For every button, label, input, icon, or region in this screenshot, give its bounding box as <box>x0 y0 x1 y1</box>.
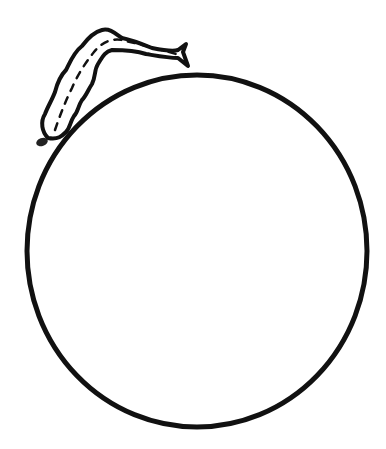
circle-shape <box>27 75 367 427</box>
caterpillar-icon <box>35 30 188 148</box>
drawing-canvas <box>0 0 386 449</box>
